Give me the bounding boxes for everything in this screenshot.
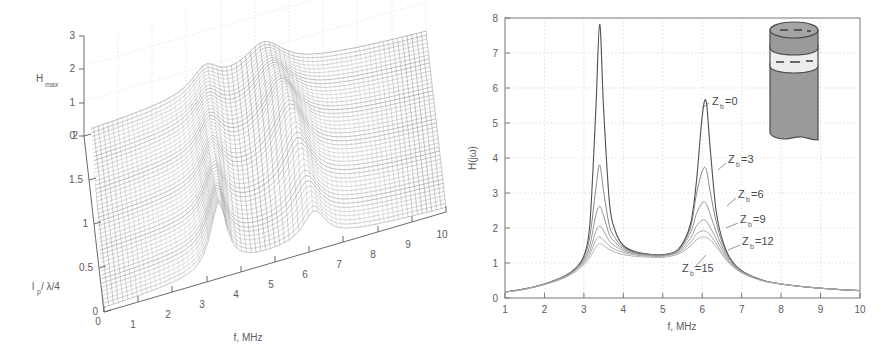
x-tick-10: 10 <box>436 229 448 240</box>
x-axis-label: f, MHz <box>234 332 263 343</box>
x-tick-1: 1 <box>130 319 136 330</box>
surface-mesh <box>84 31 446 307</box>
depth-axis-label-tail: / λ/4 <box>41 281 60 292</box>
x-tick-7: 7 <box>739 304 745 315</box>
x-tick-3: 3 <box>199 299 205 310</box>
y-tick-5: 5 <box>492 118 498 129</box>
y-tick-3: 3 <box>492 188 498 199</box>
svg-text:b: b <box>750 243 754 250</box>
x-tick-10: 10 <box>854 304 866 315</box>
svg-text:Z: Z <box>738 188 745 200</box>
depth-tick-1p5: 1.5 <box>69 174 83 185</box>
figure-container: 0 1 2 3 H max 2 1.5 1 0.5 0 l <box>0 0 893 348</box>
x-tick-5: 5 <box>268 279 274 290</box>
svg-text:=3: =3 <box>741 153 754 165</box>
x-tick-labels: 12345678910 <box>502 304 866 315</box>
svg-text:Z: Z <box>682 262 689 274</box>
3d-surface-plot: 0 1 2 3 H max 2 1.5 1 0.5 0 l <box>0 0 450 348</box>
y-tick-2: 2 <box>492 223 498 234</box>
z-axis-label-main: H <box>36 73 43 84</box>
svg-text:=15: =15 <box>695 262 714 274</box>
x-tick-6: 6 <box>302 269 308 280</box>
depth-axis-label: l p / λ/4 <box>32 281 60 296</box>
z-axis-label-sub: max <box>45 81 59 88</box>
z-axis-label: H max <box>36 73 59 88</box>
x-tick-3: 3 <box>581 304 587 315</box>
svg-text:Z: Z <box>742 235 749 247</box>
svg-text:b: b <box>690 270 694 277</box>
z-axis <box>79 36 84 136</box>
depth-tick-2: 2 <box>72 130 78 141</box>
svg-text:b: b <box>748 221 752 228</box>
svg-text:=12: =12 <box>755 235 774 247</box>
z-tick-3: 3 <box>69 30 75 41</box>
svg-text:b: b <box>736 161 740 168</box>
y-axis-label: H(jω) <box>467 146 478 170</box>
svg-text:=0: =0 <box>725 95 738 107</box>
x-tick-0: 0 <box>95 316 101 327</box>
svg-text:Z: Z <box>712 95 719 107</box>
x-tick-2: 2 <box>165 309 171 320</box>
frequency-response-plot: 012345678 12345678910 f, MHz H(jω) Zb=0Z… <box>450 0 893 348</box>
depth-tick-0p5: 0.5 <box>79 262 93 273</box>
svg-text:=9: =9 <box>753 213 766 225</box>
x-tick-2: 2 <box>542 304 548 315</box>
x-tick-9: 9 <box>405 239 411 250</box>
x-tick-1: 1 <box>502 304 508 315</box>
y-tick-labels: 012345678 <box>492 13 498 304</box>
x-tick-8: 8 <box>778 304 784 315</box>
z-tick-1: 1 <box>69 97 75 108</box>
y-tick-6: 6 <box>492 83 498 94</box>
svg-text:Z: Z <box>728 153 735 165</box>
y-tick-0: 0 <box>492 293 498 304</box>
x-tick-9: 9 <box>818 304 824 315</box>
x-tick-8: 8 <box>370 249 376 260</box>
svg-text:Z: Z <box>740 213 747 225</box>
x-tick-6: 6 <box>699 304 705 315</box>
svg-text:=6: =6 <box>751 188 764 200</box>
rod-with-bond-layer-diagram <box>770 22 818 140</box>
z-tick-2: 2 <box>69 63 75 74</box>
y-tick-8: 8 <box>492 13 498 24</box>
x-tick-4: 4 <box>621 304 627 315</box>
x-axis-label: f, MHz <box>668 321 697 332</box>
y-tick-1: 1 <box>492 258 498 269</box>
x-tick-5: 5 <box>660 304 666 315</box>
x-tick-4: 4 <box>233 289 239 300</box>
depth-tick-1: 1 <box>82 218 88 229</box>
x-tick-7: 7 <box>336 259 342 270</box>
y-tick-7: 7 <box>492 48 498 59</box>
z-tick-labels: 0 1 2 3 <box>69 30 75 141</box>
y-tick-4: 4 <box>492 153 498 164</box>
depth-axis-label-main: l <box>32 281 34 292</box>
svg-text:b: b <box>720 103 724 110</box>
svg-text:b: b <box>746 196 750 203</box>
